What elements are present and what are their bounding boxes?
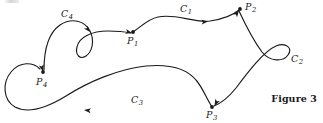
curve-label-c1: C1 [180,4,192,14]
point-label-p3: P3 [206,110,217,120]
curve-label-c4: C4 [61,9,73,19]
point-label-p2: P2 [245,2,256,12]
point-dot-p4 [41,70,45,74]
point-dot-p1 [131,30,135,34]
figure-caption: Figure 3 [271,93,317,104]
curve-c2-path [214,11,290,106]
point-dot-p2 [238,7,242,11]
curve-diagram [0,0,323,123]
curve-label-c3: C3 [131,95,143,105]
arrowhead-c1-mid [201,19,208,24]
point-label-p4: P4 [36,77,47,87]
curve-label-c2: C2 [291,54,303,64]
arrowhead-c3-mid [84,108,91,114]
figure-page: P1 P2 P3 P4 C1 C2 C3 C4 Figure 3 [0,0,323,123]
point-label-p1: P1 [127,36,138,46]
